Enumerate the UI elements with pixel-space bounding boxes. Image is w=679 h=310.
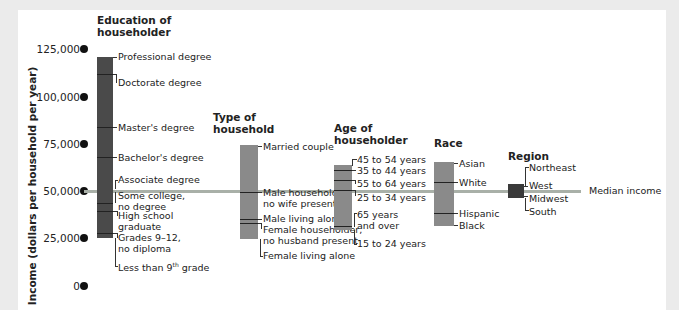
y-tick-125000: 125,000 (20, 43, 80, 55)
median-label: Median income (589, 185, 661, 196)
label-line: graduate (118, 221, 173, 232)
label-married-couple: Married couple (263, 141, 334, 152)
label-line: and over (357, 220, 399, 231)
region-title: Region (508, 150, 549, 162)
tick-dot (80, 282, 88, 290)
label-doctorate: Doctorate degree (118, 77, 202, 88)
leader (258, 146, 262, 147)
household-title-line1: Type of (213, 111, 274, 123)
label-45-54: 45 to 54 years (357, 154, 426, 165)
leader (258, 223, 262, 229)
household-divider (240, 223, 258, 224)
label-65-over: 65 years and over (357, 209, 399, 231)
label-line: 65 years (357, 209, 399, 220)
age-title-line1: Age of (334, 122, 408, 134)
y-tick-100000: 100,000 (20, 91, 80, 103)
label-25-34: 25 to 34 years (357, 192, 426, 203)
label-northeast: Northeast (529, 162, 576, 173)
label-hispanic: Hispanic (459, 208, 499, 219)
label-line: High school (118, 210, 173, 221)
leader (113, 57, 117, 58)
leader (113, 157, 117, 158)
label-midwest: Midwest (529, 193, 568, 204)
leader (524, 196, 528, 197)
y-tick-0: 0 (20, 280, 80, 292)
label-female-living-alone: Female living alone (263, 250, 355, 261)
label-professional: Professional degree (118, 51, 211, 62)
race-divider (434, 182, 454, 183)
education-title: Education of householder (97, 14, 171, 38)
leader (454, 182, 458, 183)
education-divider (97, 233, 113, 234)
education-divider (97, 211, 113, 212)
age-divider (334, 190, 352, 191)
label-text: grade (179, 262, 210, 273)
tick-dot (80, 93, 88, 101)
leader (258, 219, 262, 220)
race-bar (434, 162, 454, 226)
label-15-24: 15 to 24 years (357, 238, 426, 249)
label-some-college: Some college, no degree (118, 190, 185, 212)
age-title: Age of householder (334, 122, 408, 146)
label-asian: Asian (459, 158, 485, 169)
label-grades-9-12: Grades 9–12, no diploma (118, 232, 181, 254)
y-tick-75000: 75,000 (20, 138, 80, 150)
label-masters: Master's degree (118, 122, 194, 133)
label-line: Grades 9–12, (118, 232, 181, 243)
leader (352, 180, 356, 184)
age-title-line2: householder (334, 134, 408, 146)
label-less-than-9th: Less than 9th grade (118, 259, 209, 273)
education-divider (97, 74, 113, 75)
leader (454, 163, 458, 164)
household-title-line2: household (213, 123, 274, 135)
leader (454, 225, 458, 226)
education-title-line1: Education of (97, 14, 171, 26)
leader (352, 190, 356, 196)
label-bachelors: Bachelor's degree (118, 152, 204, 163)
age-bar (334, 165, 352, 230)
age-divider (334, 226, 352, 227)
leader (352, 170, 356, 171)
label-high-school: High school graduate (118, 210, 173, 232)
household-title: Type of household (213, 111, 274, 135)
leader (258, 192, 262, 193)
y-tick-25000: 25,000 (20, 232, 80, 244)
tick-dot (80, 45, 88, 53)
label-35-44: 35 to 44 years (357, 165, 426, 176)
label-south: South (529, 206, 557, 217)
education-title-line2: householder (97, 26, 171, 38)
race-divider (434, 213, 454, 214)
label-line: no husband present (263, 235, 362, 246)
household-divider (240, 219, 258, 220)
leader (454, 213, 458, 214)
tick-dot (80, 140, 88, 148)
age-divider (334, 170, 352, 171)
age-divider (334, 180, 352, 181)
y-tick-50000: 50,000 (20, 185, 80, 197)
leader (113, 74, 117, 83)
leader (113, 127, 117, 128)
race-title: Race (434, 137, 463, 149)
label-male-living-alone: Male living alone (263, 213, 343, 224)
label-black: Black (459, 220, 485, 231)
household-divider (240, 192, 258, 193)
education-divider (97, 127, 113, 128)
label-west: West (529, 180, 552, 191)
label-line: no diploma (118, 243, 181, 254)
education-divider (97, 203, 113, 204)
leader (524, 186, 528, 187)
label-associate: Associate degree (118, 174, 200, 185)
label-white: White (459, 177, 487, 188)
label-text: Less than 9 (118, 262, 173, 273)
education-divider (97, 157, 113, 158)
tick-dot (80, 234, 88, 242)
label-55-64: 55 to 64 years (357, 178, 426, 189)
region-bar (508, 184, 524, 198)
label-line: Some college, (118, 190, 185, 201)
